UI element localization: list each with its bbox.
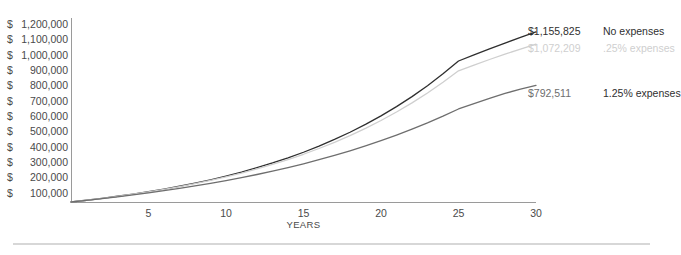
x-axis-tick: 5 <box>129 206 169 220</box>
plot-area <box>71 18 536 203</box>
series-line <box>71 32 536 202</box>
x-axis-tick: 10 <box>206 206 246 220</box>
y-axis-tick: $1,200,000 <box>6 18 68 31</box>
x-axis-tick: 25 <box>439 206 479 220</box>
currency-symbol: $ <box>6 33 13 46</box>
x-axis-tick: 20 <box>361 206 401 220</box>
y-axis-tick-value: 100,000 <box>30 187 68 200</box>
y-axis-tick-value: 900,000 <box>30 64 68 77</box>
series-name: No expenses <box>603 24 664 38</box>
currency-symbol: $ <box>6 141 13 154</box>
y-axis-tick-value: 800,000 <box>30 79 68 92</box>
y-axis-tick: $1,100,000 <box>6 33 68 46</box>
series-name: 1.25% expenses <box>603 86 681 100</box>
y-axis-tick-value: 700,000 <box>30 95 68 108</box>
currency-symbol: $ <box>6 156 13 169</box>
y-axis-tick: $200,000 <box>6 171 68 184</box>
x-axis-tick: 30 <box>516 206 556 220</box>
y-axis-tick: $400,000 <box>6 141 68 154</box>
series-end-value: $792,511 <box>528 86 571 100</box>
y-axis-tick: $500,000 <box>6 125 68 138</box>
y-axis-tick-value: 200,000 <box>30 171 68 184</box>
y-axis-tick-value: 600,000 <box>30 110 68 123</box>
x-axis-tick: 15 <box>284 206 324 220</box>
currency-symbol: $ <box>6 187 13 200</box>
series-line <box>71 85 536 202</box>
y-axis-tick: $700,000 <box>6 95 68 108</box>
y-axis-tick-value: 1,200,000 <box>21 18 68 31</box>
x-axis-title: YEARS <box>71 219 536 230</box>
series-name: .25% expenses <box>603 41 675 55</box>
y-axis-tick: $900,000 <box>6 64 68 77</box>
currency-symbol: $ <box>6 64 13 77</box>
y-axis-tick-value: 400,000 <box>30 141 68 154</box>
y-axis-tick-value: 1,000,000 <box>21 49 68 62</box>
currency-symbol: $ <box>6 171 13 184</box>
series-end-value: $1,155,825 <box>528 24 581 38</box>
y-axis-tick-value: 1,100,000 <box>21 33 68 46</box>
y-axis-tick-value: 500,000 <box>30 125 68 138</box>
y-axis-tick-labels: $1,200,000$1,100,000$1,000,000$900,000$8… <box>6 18 68 202</box>
footer-divider <box>13 243 650 245</box>
currency-symbol: $ <box>6 18 13 31</box>
y-axis-tick: $300,000 <box>6 156 68 169</box>
currency-symbol: $ <box>6 49 13 62</box>
currency-symbol: $ <box>6 95 13 108</box>
series-line <box>71 44 536 202</box>
currency-symbol: $ <box>6 79 13 92</box>
x-axis-tick-labels: 51015202530 <box>71 206 551 220</box>
y-axis-tick: $100,000 <box>6 187 68 200</box>
currency-symbol: $ <box>6 110 13 123</box>
clipped-top-text <box>0 0 664 4</box>
series-lines <box>71 18 536 203</box>
currency-symbol: $ <box>6 125 13 138</box>
y-axis-tick-value: 300,000 <box>30 156 68 169</box>
series-end-value: $1,072,209 <box>528 41 581 55</box>
y-axis-tick: $800,000 <box>6 79 68 92</box>
y-axis-tick: $1,000,000 <box>6 49 68 62</box>
y-axis-tick: $600,000 <box>6 110 68 123</box>
